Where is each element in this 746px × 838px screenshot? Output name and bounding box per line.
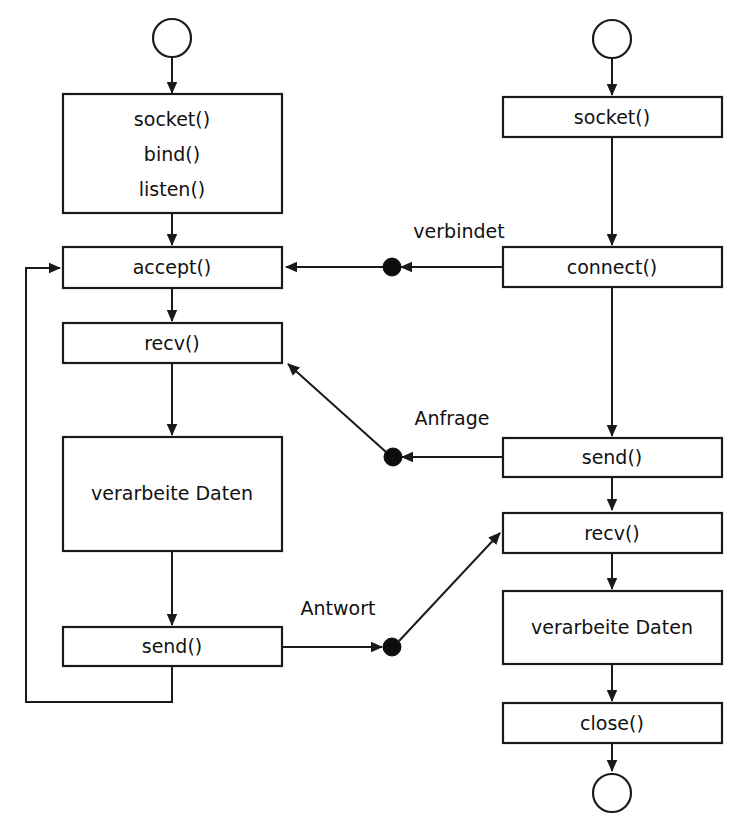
client-recv-label: recv() (584, 522, 640, 544)
server-init-label-bind: bind() (144, 143, 200, 165)
client-end-circle (593, 774, 631, 812)
client-process-label: verarbeite Daten (531, 616, 693, 638)
server-send-label: send() (142, 635, 203, 657)
server-init-label-listen: listen() (139, 178, 205, 200)
edge-label-anfrage: Anfrage (415, 407, 490, 429)
junction-dot-verbindet (383, 258, 401, 276)
socket-flow-diagram: socket() bind() listen() accept() recv()… (0, 0, 746, 838)
junction-dot-antwort (383, 638, 401, 656)
server-recv-label: recv() (144, 332, 200, 354)
client-socket-label: socket() (574, 106, 650, 128)
junction-dot-anfrage (384, 448, 402, 466)
edge-anfrage-to-server-recv (288, 364, 386, 452)
server-init-label-socket: socket() (134, 108, 210, 130)
client-start-circle (593, 20, 631, 58)
edge-label-verbindet: verbindet (413, 220, 504, 242)
server-process-label: verarbeite Daten (91, 482, 253, 504)
client-send-label: send() (582, 446, 643, 468)
client-close-label: close() (580, 712, 644, 734)
edge-antwort-to-client-recv (399, 533, 500, 641)
client-connect-label: connect() (567, 256, 658, 278)
server-accept-label: accept() (133, 256, 212, 278)
edge-label-antwort: Antwort (301, 597, 376, 619)
server-start-circle (153, 19, 191, 57)
diagram-canvas: socket() bind() listen() accept() recv()… (0, 0, 746, 838)
